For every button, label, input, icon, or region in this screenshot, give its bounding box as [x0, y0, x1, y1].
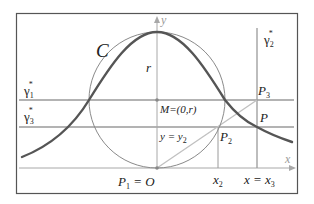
x-axis-label: x — [284, 152, 291, 166]
witch-of-agnesi-diagram: C r y x M=(0,r) y = y2 P1 = O γ1* γ3* γ2… — [0, 0, 314, 204]
y-axis-label: y — [160, 13, 167, 27]
gamma3-label: γ3* — [23, 106, 34, 126]
origin-label: P1 = O — [117, 174, 155, 191]
x2-label: x2 — [212, 172, 223, 189]
gamma2-label: γ2* — [263, 29, 274, 49]
origin-point — [155, 166, 159, 170]
gamma1-label: γ1* — [23, 80, 34, 100]
curve-label: C — [96, 40, 109, 61]
center-point-m — [155, 98, 159, 102]
y-axis-arrow-icon — [154, 16, 160, 23]
p-label: P — [259, 110, 268, 125]
x3-label: x = x3 — [243, 172, 275, 189]
p2-label: P2 — [219, 129, 232, 146]
line-y2-label: y = y2 — [159, 130, 187, 145]
p3-label: P3 — [257, 83, 270, 100]
radius-label: r — [146, 60, 152, 75]
center-label: M=(0,r) — [159, 103, 197, 116]
